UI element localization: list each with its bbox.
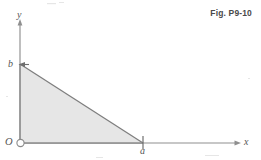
x-axis-arrowhead	[235, 141, 242, 146]
origin-label: O	[5, 137, 13, 148]
figure-container: Fig. P9-10 y x O b a	[0, 0, 261, 160]
y-axis-label: y	[17, 10, 21, 20]
origin-pin-marker	[17, 139, 24, 146]
figure-caption: Fig. P9-10	[210, 8, 252, 18]
figure-drawing	[0, 0, 261, 160]
x-axis-label: x	[244, 137, 248, 147]
vertex-a-label: a	[140, 146, 145, 156]
vertex-b-label: b	[8, 59, 13, 69]
